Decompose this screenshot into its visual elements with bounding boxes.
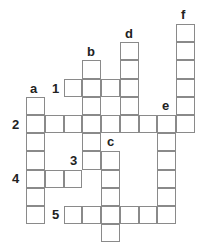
clue-number-label: e [162,99,169,112]
clue-number-label: 2 [12,118,19,131]
clue-number-label: 5 [52,208,59,221]
crossword-cell[interactable] [26,188,45,206]
clue-number-label: b [87,45,95,58]
crossword-cell[interactable] [176,97,195,115]
crossword-cell[interactable] [26,115,45,133]
crossword-cell[interactable] [157,151,176,169]
crossword-cell[interactable] [120,79,139,97]
crossword-cell[interactable] [82,151,101,169]
crossword-cell[interactable] [26,133,45,151]
crossword-cell[interactable] [64,115,83,133]
crossword-grid: abcdef12345 [0,0,208,249]
crossword-cell[interactable] [120,42,139,60]
crossword-cell[interactable] [64,79,83,97]
crossword-cell[interactable] [176,115,195,133]
crossword-cell[interactable] [176,79,195,97]
crossword-cell[interactable] [101,170,120,188]
crossword-cell[interactable] [101,224,120,242]
crossword-cell[interactable] [157,170,176,188]
clue-number-label: f [181,8,185,21]
crossword-cell[interactable] [101,115,120,133]
crossword-cell[interactable] [176,24,195,42]
crossword-cell[interactable] [101,206,120,224]
crossword-cell[interactable] [176,60,195,78]
crossword-cell[interactable] [139,206,158,224]
crossword-cell[interactable] [101,79,120,97]
clue-number-label: c [107,135,114,148]
crossword-cell[interactable] [157,133,176,151]
crossword-cell[interactable] [120,206,139,224]
clue-number-label: 4 [12,172,19,185]
crossword-cell[interactable] [157,188,176,206]
crossword-cell[interactable] [157,206,176,224]
crossword-cell[interactable] [26,97,45,115]
crossword-cell[interactable] [45,115,64,133]
crossword-cell[interactable] [157,115,176,133]
clue-number-label: 1 [52,82,59,95]
crossword-cell[interactable] [101,188,120,206]
clue-number-label: 3 [70,154,77,167]
crossword-cell[interactable] [82,60,101,78]
crossword-cell[interactable] [82,97,101,115]
crossword-cell[interactable] [64,206,83,224]
clue-number-label: d [125,27,133,40]
crossword-cell[interactable] [82,206,101,224]
crossword-cell[interactable] [176,42,195,60]
crossword-cell[interactable] [120,60,139,78]
crossword-cell[interactable] [45,170,64,188]
crossword-cell[interactable] [64,170,83,188]
crossword-cell[interactable] [139,115,158,133]
crossword-cell[interactable] [26,170,45,188]
crossword-cell[interactable] [120,97,139,115]
crossword-cell[interactable] [120,115,139,133]
clue-number-label: a [30,82,37,95]
crossword-cell[interactable] [82,79,101,97]
crossword-cell[interactable] [82,115,101,133]
crossword-cell[interactable] [26,151,45,169]
crossword-cell[interactable] [82,133,101,151]
crossword-cell[interactable] [26,206,45,224]
crossword-cell[interactable] [101,151,120,169]
